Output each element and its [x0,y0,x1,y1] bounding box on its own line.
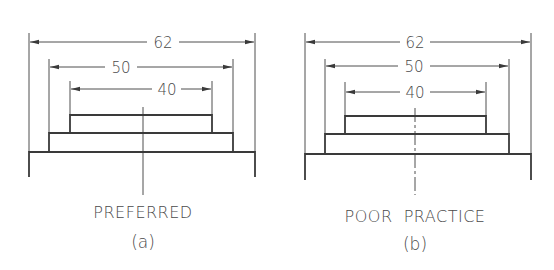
sub-label-b: (b) [403,234,427,254]
figure-b-poor-practice: 62 50 40 POOR PRACTICE (b) [305,33,531,254]
dimension-label-62: 62 [153,34,172,52]
part-outline [305,116,531,180]
dimension-50: 50 [50,59,232,77]
dimensioning-diagram: 62 50 40 PREFERRED (a) [0,0,554,270]
dimension-label-62: 62 [405,34,424,52]
figure-a-preferred: 62 50 40 PREFERRED (a) [29,33,255,252]
caption-poor-practice: POOR PRACTICE [345,207,486,226]
dimension-label-40: 40 [405,84,424,102]
dimension-62: 62 [30,34,254,52]
caption-preferred: PREFERRED [93,203,192,222]
dimension-62: 62 [306,34,530,52]
dimension-label-50: 50 [404,58,423,76]
dimension-label-40: 40 [157,81,176,99]
dimension-label-50: 50 [111,59,130,77]
extension-lines [29,33,255,152]
sub-label-a: (a) [131,232,155,252]
dimension-50: 50 [326,58,508,76]
dimension-40: 40 [346,84,485,102]
part-outline [29,115,255,177]
dimension-40: 40 [71,81,211,99]
